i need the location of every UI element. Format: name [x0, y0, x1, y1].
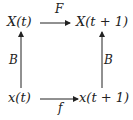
- label-B-right: B: [104, 53, 113, 67]
- label-f: f: [58, 101, 62, 115]
- node-top-left: X(t): [7, 14, 32, 29]
- label-B-left: B: [9, 53, 18, 67]
- node-top-right: X(t + 1): [76, 14, 128, 29]
- label-F: F: [55, 2, 63, 16]
- node-bottom-right: x(t + 1): [79, 90, 129, 105]
- node-bottom-left: x(t): [8, 90, 31, 105]
